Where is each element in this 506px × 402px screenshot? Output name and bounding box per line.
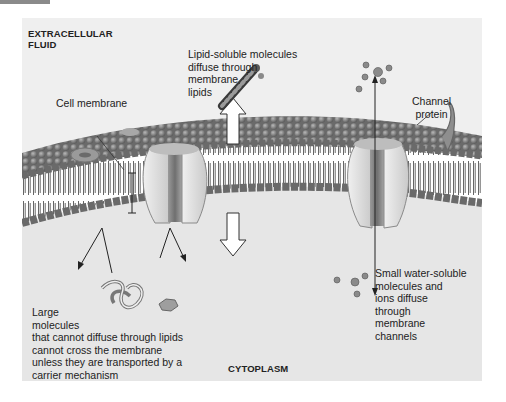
lipid-line-3: membrane <box>188 73 297 86</box>
label-cytoplasm: CYTOPLASM <box>228 363 288 374</box>
label-channel-protein: Channel protein <box>412 95 451 120</box>
label-lipid-soluble: Lipid-soluble molecules diffuse through … <box>188 48 297 98</box>
label-extracellular-fluid: EXTRACELLULAR FLUID <box>28 28 113 50</box>
channel-protein-right <box>348 138 409 228</box>
corner-tab <box>0 0 50 4</box>
channel-line-2: protein <box>412 108 451 121</box>
double-arrow-down <box>220 213 246 256</box>
label-large-molecules: Large molecules that cannot diffuse thro… <box>32 306 183 381</box>
small-line-3: ions diffuse <box>375 292 467 305</box>
extracellular-line-1: EXTRACELLULAR <box>28 28 113 39</box>
large-line-5: unless they are transported by a <box>32 356 183 369</box>
large-line-2: molecules <box>32 319 183 332</box>
lipid-line-4: lipids <box>188 86 297 99</box>
small-line-1: Small water-soluble <box>375 267 467 280</box>
large-line-3: that cannot diffuse through lipids <box>32 331 183 344</box>
large-line-6: carrier mechanism <box>32 369 183 382</box>
extracellular-line-2: FLUID <box>28 39 113 50</box>
label-small-water-soluble: Small water-soluble molecules and ions d… <box>375 267 467 342</box>
lipid-line-2: diffuse through <box>188 61 297 74</box>
small-line-2: molecules and <box>375 280 467 293</box>
small-line-4: through <box>375 305 467 318</box>
large-line-4: cannot cross the membrane <box>32 344 183 357</box>
label-cell-membrane: Cell membrane <box>56 97 127 110</box>
large-line-1: Large <box>32 306 183 319</box>
channel-line-1: Channel <box>412 95 451 108</box>
small-line-6: channels <box>375 330 467 343</box>
figure-panel: EXTRACELLULAR FLUID Cell membrane Lipid-… <box>22 18 482 381</box>
ion-sphere-icon <box>356 62 392 92</box>
lipid-line-1: Lipid-soluble molecules <box>188 48 297 61</box>
small-line-5: membrane <box>375 317 467 330</box>
channel-protein-left <box>143 143 207 223</box>
